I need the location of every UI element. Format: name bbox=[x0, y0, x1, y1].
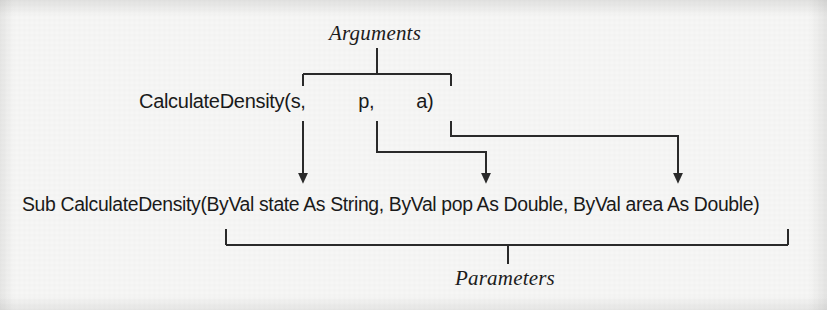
connector-lines-group bbox=[0, 0, 827, 310]
argument-parameter-diagram: Arguments CalculateDensity(s, p, a) Sub … bbox=[0, 0, 827, 310]
parameters-brace bbox=[226, 229, 788, 264]
mapping-arrow-p-to-pop bbox=[377, 121, 486, 174]
arguments-brace bbox=[303, 48, 451, 86]
